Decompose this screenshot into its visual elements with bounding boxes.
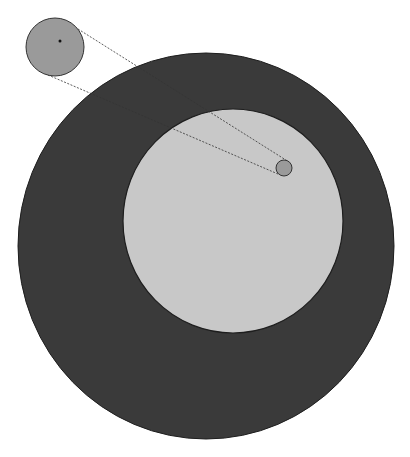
small-target-circle: [276, 160, 292, 176]
inner-light-disk: [123, 109, 343, 333]
magnified-circle: [26, 18, 84, 76]
center-dot: [59, 40, 62, 43]
diagram-canvas: [0, 0, 410, 457]
